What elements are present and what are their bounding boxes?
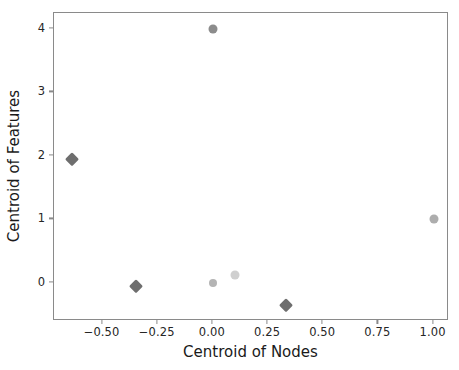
point-diamond-left [65, 152, 79, 166]
y-axis-title: Centroid of Features [4, 12, 24, 320]
y-tick-label: 2 [38, 148, 45, 162]
point-diamond-lower-left [129, 279, 143, 293]
x-tick-label: −0.50 [84, 325, 120, 339]
x-tick-mark [156, 320, 157, 324]
plot-area-frame [53, 12, 448, 320]
point-circle-near-origin [230, 271, 239, 280]
x-tick-mark [266, 320, 267, 324]
x-tick-label: −0.25 [139, 325, 175, 339]
x-tick-label: 0.50 [309, 325, 335, 339]
y-tick-mark [49, 27, 53, 28]
x-tick-mark [377, 320, 378, 324]
y-tick-mark [49, 218, 53, 219]
x-axis-title: Centroid of Nodes [53, 343, 448, 361]
y-tick-label: 0 [38, 275, 45, 289]
y-tick-label: 1 [38, 211, 45, 225]
x-tick-mark [322, 320, 323, 324]
x-tick-label: 0.25 [254, 325, 280, 339]
x-tick-mark [101, 320, 102, 324]
y-axis-title-text: Centroid of Features [5, 90, 23, 242]
x-tick-mark [432, 320, 433, 324]
x-tick-label: 0.00 [199, 325, 225, 339]
x-tick-label: 1.00 [420, 325, 446, 339]
y-tick-label: 4 [38, 21, 45, 35]
y-tick-mark [49, 281, 53, 282]
x-tick-label: 0.75 [364, 325, 390, 339]
y-tick-mark [49, 154, 53, 155]
scatter-chart-figure: −0.50−0.250.000.250.500.751.00 01234 Cen… [0, 0, 459, 370]
x-tick-mark [211, 320, 212, 324]
y-tick-mark [49, 91, 53, 92]
data-points-layer [54, 13, 447, 319]
point-circle-right [429, 215, 438, 224]
y-tick-label: 3 [38, 84, 45, 98]
point-diamond-bottom [279, 298, 293, 312]
point-circle-top [208, 24, 217, 33]
point-circle-origin [209, 279, 217, 287]
